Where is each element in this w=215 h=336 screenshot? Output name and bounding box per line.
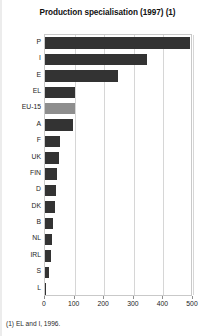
bar-row bbox=[45, 54, 191, 65]
x-axis: 0100200300400500 bbox=[44, 296, 192, 312]
y-tick-label-l: L bbox=[0, 284, 41, 292]
bar-row bbox=[45, 234, 191, 245]
bar-row bbox=[45, 283, 191, 294]
y-tick-label-dk: DK bbox=[0, 202, 41, 210]
x-tick-mark-400 bbox=[162, 296, 163, 299]
bar-dk bbox=[45, 201, 55, 212]
bar-el bbox=[45, 87, 75, 98]
y-tick-label-s: S bbox=[0, 267, 41, 275]
x-tick-label-400: 400 bbox=[157, 300, 168, 307]
page-title: Production specialisation (1997) (1) bbox=[0, 8, 215, 17]
bar-row bbox=[45, 119, 191, 130]
plot-area bbox=[44, 34, 192, 296]
gridline-500 bbox=[193, 35, 194, 295]
bar-nl bbox=[45, 234, 52, 245]
bar-row bbox=[45, 37, 191, 48]
bars-layer bbox=[45, 35, 191, 295]
bar-row bbox=[45, 267, 191, 278]
bar-row bbox=[45, 201, 191, 212]
chart-footnote: (1) EL and I, 1996. bbox=[6, 320, 60, 327]
y-tick-label-e: E bbox=[0, 71, 41, 79]
bar-uk bbox=[45, 152, 59, 163]
bar-row bbox=[45, 185, 191, 196]
bar-row bbox=[45, 250, 191, 261]
y-tick-label-b: B bbox=[0, 218, 41, 226]
bar-a bbox=[45, 119, 73, 130]
bar-e bbox=[45, 70, 118, 81]
y-tick-label-el: EL bbox=[0, 87, 41, 95]
x-tick-label-300: 300 bbox=[127, 300, 138, 307]
y-tick-label-d: D bbox=[0, 185, 41, 193]
y-tick-label-i: I bbox=[0, 54, 41, 62]
y-tick-label-eu-15: EU-15 bbox=[0, 103, 41, 111]
bar-s bbox=[45, 267, 49, 278]
bar-row bbox=[45, 103, 191, 114]
bar-fin bbox=[45, 168, 57, 179]
bar-row bbox=[45, 152, 191, 163]
bar-row bbox=[45, 218, 191, 229]
x-tick-label-200: 200 bbox=[98, 300, 109, 307]
chart-figure: Production specialisation (1997) (1) PIE… bbox=[0, 0, 215, 336]
x-tick-label-100: 100 bbox=[68, 300, 79, 307]
bar-f bbox=[45, 136, 60, 147]
y-tick-label-irl: IRL bbox=[0, 251, 41, 259]
bar-row bbox=[45, 70, 191, 81]
x-tick-mark-300 bbox=[133, 296, 134, 299]
x-tick-label-500: 500 bbox=[186, 300, 197, 307]
x-tick-mark-200 bbox=[103, 296, 104, 299]
bar-row bbox=[45, 136, 191, 147]
bar-l bbox=[45, 283, 46, 294]
y-tick-label-nl: NL bbox=[0, 234, 41, 242]
bar-eu-15 bbox=[45, 103, 75, 114]
y-axis-category-labels: PIEELEU-15AFUKFINDDKBNLIRLSL bbox=[0, 34, 41, 296]
bar-d bbox=[45, 185, 56, 196]
bar-row bbox=[45, 87, 191, 98]
bar-b bbox=[45, 218, 53, 229]
bar-irl bbox=[45, 250, 51, 261]
y-tick-label-a: A bbox=[0, 120, 41, 128]
bar-i bbox=[45, 54, 147, 65]
x-tick-mark-100 bbox=[74, 296, 75, 299]
y-tick-label-uk: UK bbox=[0, 153, 41, 161]
x-tick-mark-500 bbox=[192, 296, 193, 299]
x-tick-mark-0 bbox=[44, 296, 45, 299]
y-tick-label-fin: FIN bbox=[0, 169, 41, 177]
bar-p bbox=[45, 37, 190, 48]
y-tick-label-f: F bbox=[0, 136, 41, 144]
bar-row bbox=[45, 168, 191, 179]
y-tick-label-p: P bbox=[0, 38, 41, 46]
x-tick-label-0: 0 bbox=[42, 300, 46, 307]
